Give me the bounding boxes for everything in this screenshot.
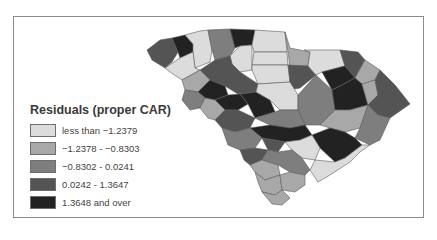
legend-swatch xyxy=(30,124,56,137)
legend-swatch xyxy=(30,160,56,173)
county xyxy=(252,30,287,52)
county xyxy=(252,65,290,84)
legend-item: 1.3648 and over xyxy=(30,193,171,211)
legend-label: less than −1.2379 xyxy=(62,125,137,136)
legend-item: −0.8302 - 0.0241 xyxy=(30,157,171,175)
legend-title: Residuals (proper CAR) xyxy=(30,103,171,117)
legend-swatch xyxy=(30,142,56,155)
legend-item: −1.2378 - −0.8303 xyxy=(30,139,171,157)
legend-item: 0.0242 - 1.3647 xyxy=(30,175,171,193)
legend-label: 1.3648 and over xyxy=(62,197,131,208)
legend-swatch xyxy=(30,178,56,191)
county xyxy=(252,52,288,65)
legend-item: less than −1.2379 xyxy=(30,121,171,139)
legend: Residuals (proper CAR) less than −1.2379… xyxy=(30,103,171,211)
legend-label: −1.2378 - −0.8303 xyxy=(62,143,140,154)
legend-label: −0.8302 - 0.0241 xyxy=(62,161,134,172)
legend-swatch xyxy=(30,196,56,209)
legend-label: 0.0242 - 1.3647 xyxy=(62,179,129,190)
county xyxy=(280,172,305,192)
